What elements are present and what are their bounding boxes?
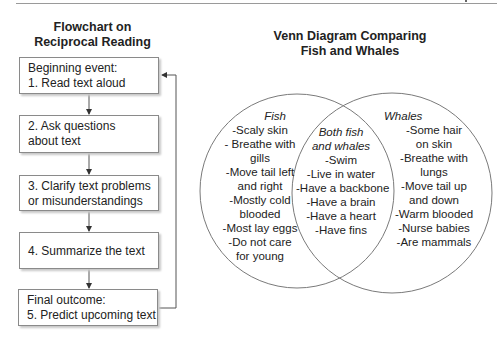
flow-step-2-line2: about text	[28, 134, 158, 149]
feedback-loop-arrow	[159, 75, 176, 308]
venn-whales-item: lungs	[378, 165, 490, 179]
flow-step-3: 3. Clarify text problems or misunderstan…	[19, 175, 159, 211]
flow-step-4: 4. Summarize the text	[19, 232, 159, 269]
flow-step-3-line1: 3. Clarify text problems	[28, 179, 158, 194]
venn-whales-item: -Some hair	[378, 123, 490, 137]
flow-step-5: Final outcome: 5. Predict upcoming text	[18, 289, 158, 326]
venn-fish-item: -Do not care	[210, 235, 310, 249]
venn-overlap-section: Both fish and whales -Swim -Live in wate…	[296, 125, 386, 237]
venn-overlap-item: -Have a backbone	[296, 181, 386, 195]
venn-fish-item: -Most lay eggs	[210, 221, 310, 235]
flow-step-2-line1: 2. Ask questions	[28, 119, 158, 134]
flow-step-5-line2: 5. Predict upcoming text	[27, 308, 157, 323]
venn-overlap-item: -Live in water	[296, 167, 386, 181]
venn-fish-item: -Mostly cold	[210, 193, 310, 207]
venn-whales-item: -Nurse babies	[378, 221, 490, 235]
flow-step-3-line2: or misunderstandings	[28, 194, 158, 209]
venn-overlap-item: -Swim	[296, 153, 386, 167]
venn-overlap-item: -Have a brain	[296, 195, 386, 209]
venn-fish-item: - Breathe with	[210, 137, 310, 151]
venn-whales-item: -Warm blooded	[378, 207, 490, 221]
flow-step-5-line1: Final outcome:	[27, 293, 157, 308]
venn-fish-heading: Fish	[210, 109, 310, 123]
venn-whales-item: on skin	[378, 137, 490, 151]
venn-overlap-item: -Have fins	[296, 223, 386, 237]
venn-overlap-heading-line2: and whales	[296, 139, 386, 153]
venn-fish-item: blooded	[210, 207, 310, 221]
venn-whales-item: and down	[378, 193, 490, 207]
flow-step-1-line1: Beginning event:	[28, 61, 158, 76]
venn-whales-section: Whales -Some hair on skin -Breathe with …	[378, 109, 490, 249]
venn-title-line2: Fish and Whales	[250, 44, 450, 59]
venn-fish-item: for young	[210, 249, 310, 263]
venn-title: Venn Diagram Comparing Fish and Whales	[250, 29, 450, 59]
venn-overlap-heading-line1: Both fish	[296, 125, 386, 139]
venn-fish-item: -Scaly skin	[210, 123, 310, 137]
venn-fish-item: -Move tail left	[210, 165, 310, 179]
venn-title-line1: Venn Diagram Comparing	[250, 29, 450, 44]
venn-fish-item: and right	[210, 179, 310, 193]
venn-whales-item: -Breathe with	[378, 151, 490, 165]
venn-whales-item: -Move tail up	[378, 179, 490, 193]
flow-step-1: Beginning event: 1. Read text aloud	[19, 57, 159, 94]
venn-whales-item: -Are mammals	[378, 235, 490, 249]
flow-step-1-line2: 1. Read text aloud	[28, 76, 158, 91]
venn-whales-heading: Whales	[378, 109, 490, 123]
flow-step-2: 2. Ask questions about text	[19, 115, 159, 153]
flow-step-4-line1: 4. Summarize the text	[28, 244, 158, 259]
venn-fish-section: Fish -Scaly skin - Breathe with gills -M…	[210, 109, 310, 263]
venn-overlap-item: -Have a heart	[296, 209, 386, 223]
venn-fish-item: gills	[210, 151, 310, 165]
